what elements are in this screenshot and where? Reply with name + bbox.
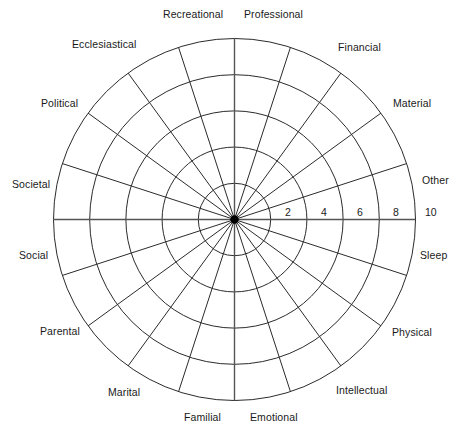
- grid-spoke-11: [179, 220, 235, 392]
- grid-spoke-17: [88, 113, 234, 219]
- center-point: [230, 215, 238, 223]
- radar-chart: Professional Recreational Ecclesiastical…: [0, 0, 459, 433]
- radial-tick-8: 8: [392, 206, 400, 218]
- grid-spoke-9: [235, 220, 291, 392]
- grid-spoke-8: [235, 220, 341, 366]
- category-label-ecclesiastical: Ecclesiastical: [72, 38, 136, 50]
- category-label-financial: Financial: [338, 41, 381, 53]
- category-label-professional: Professional: [244, 8, 303, 20]
- category-label-social: Social: [19, 249, 48, 261]
- grid-spoke-1: [235, 47, 291, 219]
- category-label-marital: Marital: [108, 386, 140, 398]
- grid-spoke-6: [235, 220, 407, 276]
- grid-spoke-12: [128, 220, 234, 366]
- radial-tick-4: 4: [320, 206, 328, 218]
- radial-tick-10: 10: [424, 206, 438, 218]
- grid-spoke-16: [62, 164, 234, 220]
- category-label-parental: Parental: [40, 325, 80, 337]
- category-label-recreational: Recreational: [163, 8, 223, 20]
- grid-spoke-2: [235, 73, 341, 219]
- category-label-physical: Physical: [392, 326, 432, 338]
- grid-spoke-7: [235, 220, 381, 326]
- grid-spoke-13: [88, 220, 234, 326]
- category-label-societal: Societal: [12, 178, 50, 190]
- radial-tick-6: 6: [356, 206, 364, 218]
- category-label-familial: Familial: [184, 411, 221, 423]
- radial-tick-2: 2: [284, 206, 292, 218]
- category-label-emotional: Emotional: [250, 411, 298, 423]
- radar-grid-svg: [0, 0, 459, 433]
- grid-spoke-14: [62, 220, 234, 276]
- grid-spoke-18: [128, 73, 234, 219]
- category-label-intellectual: Intellectual: [336, 384, 387, 396]
- category-label-other: Other: [422, 174, 449, 186]
- category-label-material: Material: [393, 97, 431, 109]
- grid-spoke-19: [179, 47, 235, 219]
- category-label-political: Political: [41, 97, 78, 109]
- category-label-sleep: Sleep: [420, 249, 447, 261]
- grid-spoke-3: [235, 113, 381, 219]
